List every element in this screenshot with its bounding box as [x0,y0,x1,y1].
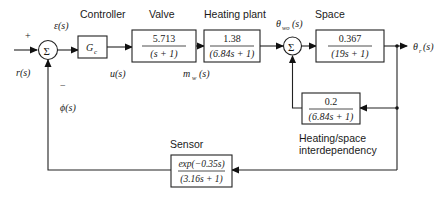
plus-sign: + [25,30,31,41]
control-signal-label: u(s) [110,68,126,80]
controller-block: G c [78,36,107,58]
minus-sign: − [60,80,66,91]
sensor-numerator: exp(−0.35s) [178,159,224,170]
svg-text:(s): (s) [292,18,303,30]
svg-text:m: m [183,68,190,79]
svg-text:θ: θ [413,41,418,52]
heating-plant-numerator: 1.38 [223,33,241,44]
heating-plant-denominator: (6.84s + 1) [210,48,255,60]
sensor-block: exp(−0.35s) (3.16s + 1) [171,155,232,187]
svg-text:(s): (s) [423,41,434,53]
error-signal-label: ε(s) [54,20,69,32]
valve-label: Valve [149,8,175,20]
svg-text:wo: wo [282,24,290,31]
heating-plant-label: Heating plant [204,8,266,20]
interdependency-feedback-arrow [293,56,303,108]
water-temp-signal-label: θ wo (s) [276,18,303,31]
valve-numerator: 5.713 [153,33,176,44]
controller-label: Controller [80,8,126,20]
svg-text:r: r [419,47,422,54]
output-signal-label: θ r (s) [413,41,434,54]
interdependency-block: 0.2 (6.84s + 1) [302,93,360,124]
space-denominator: (19s + 1) [331,48,369,60]
reference-signal-label: r(s) [16,67,31,79]
space-label: Space [315,8,345,20]
interdependency-label-line1: Heating/space [299,132,366,144]
water-flow-signal-label: m w (s) [183,68,210,81]
heating-plant-block: 1.38 (6.84s + 1) [204,30,260,62]
valve-block: 5.713 (s + 1) [132,30,196,62]
sensor-denominator: (3.16s + 1) [180,174,223,185]
controller-gain: G [86,42,93,53]
sum-icon: Σ [288,41,294,53]
space-numerator: 0.367 [339,33,362,44]
svg-text:w: w [192,74,197,81]
interdependency-denominator: (6.84s + 1) [309,111,354,123]
valve-denominator: (s + 1) [150,48,178,60]
sum-icon: Σ [44,45,50,57]
summing-junction-1: Σ [39,41,58,60]
svg-text:θ: θ [276,18,281,29]
interdependency-label-line2: interdependency [299,144,377,156]
interdependency-numerator: 0.2 [325,96,338,107]
summing-junction-2: Σ [284,37,302,55]
svg-text:(s): (s) [199,68,210,80]
sensor-label: Sensor [170,138,204,150]
space-block: 0.367 (19s + 1) [316,30,384,62]
feedback-signal-label: ϕ(s) [60,102,76,114]
